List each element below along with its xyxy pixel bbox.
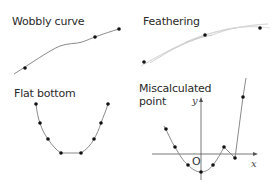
- data-point: [93, 35, 97, 39]
- data-point: [38, 121, 42, 125]
- feathering-panel: [141, 24, 270, 66]
- flat-bottom-curve: [36, 104, 108, 153]
- data-point: [211, 163, 215, 167]
- data-point: [142, 60, 146, 64]
- data-point: [117, 27, 121, 31]
- y-axis-label: y: [191, 95, 198, 106]
- origin-label: O: [192, 155, 201, 168]
- data-point: [106, 102, 110, 106]
- data-point: [258, 26, 262, 30]
- data-point: [199, 170, 203, 174]
- data-point: [46, 137, 50, 141]
- flat-bottom-panel: [34, 102, 110, 155]
- miscalculated-point-panel: x y O: [152, 78, 258, 180]
- miscalculated-points: [164, 95, 245, 174]
- data-point: [34, 102, 38, 106]
- data-point: [186, 163, 190, 167]
- data-point: [79, 151, 83, 155]
- x-axis-arrow-icon: [253, 152, 258, 156]
- data-point: [99, 121, 103, 125]
- feather-stroke: [210, 24, 268, 36]
- data-point: [23, 66, 27, 70]
- data-point: [222, 145, 226, 149]
- data-point: [233, 156, 237, 160]
- data-point: [164, 127, 168, 131]
- data-point: [203, 33, 207, 37]
- wobbly-curve-panel: [14, 27, 121, 74]
- feathering-points: [142, 26, 262, 64]
- diagram-canvas: x y O: [0, 0, 280, 185]
- y-axis-arrow-icon: [199, 97, 203, 102]
- data-point: [59, 151, 63, 155]
- data-point: [241, 95, 245, 99]
- wobbly-curve-line: [14, 29, 119, 74]
- wobbly-curve-points: [23, 27, 121, 70]
- data-point: [173, 145, 177, 149]
- feather-stroke: [150, 35, 212, 63]
- x-axis-label: x: [251, 158, 257, 169]
- feather-stroke: [141, 36, 205, 66]
- data-point: [92, 137, 96, 141]
- flat-bottom-points: [34, 102, 110, 155]
